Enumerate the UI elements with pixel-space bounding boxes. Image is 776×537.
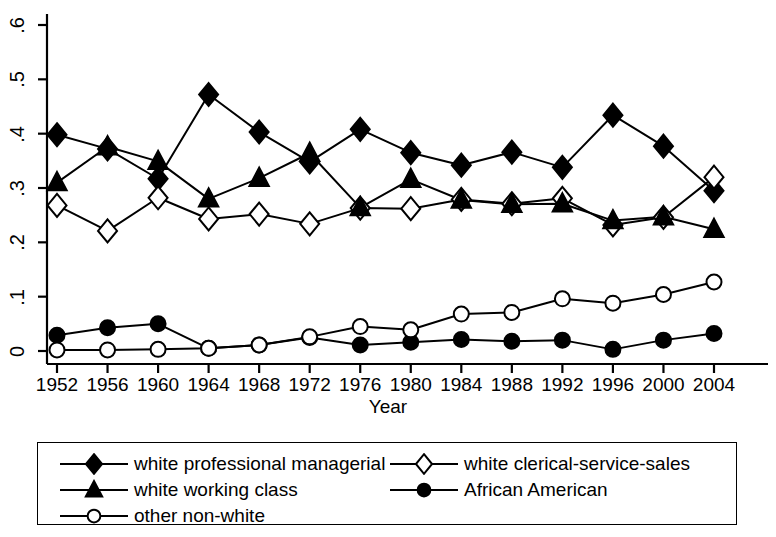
open-circle-icon bbox=[58, 505, 130, 527]
y-tick-label: .1 bbox=[6, 280, 29, 314]
legend-item-1[interactable]: white professional managerial bbox=[58, 451, 385, 477]
legend-label: other non-white bbox=[134, 505, 265, 527]
y-tick-label: .6 bbox=[6, 9, 29, 43]
filled-diamond-icon bbox=[58, 453, 130, 475]
x-tick-label: 1960 bbox=[132, 374, 184, 396]
x-tick-label: 2004 bbox=[688, 374, 740, 396]
y-tick-label: 0 bbox=[6, 335, 29, 369]
line-chart-svg bbox=[0, 0, 776, 420]
legend-label: white working class bbox=[134, 479, 298, 501]
x-tick-label: 1980 bbox=[385, 374, 437, 396]
legend-label: white professional managerial bbox=[134, 453, 385, 475]
legend-label: African American bbox=[464, 479, 608, 501]
x-tick-label: 1984 bbox=[435, 374, 487, 396]
legend-item-4[interactable]: African American bbox=[388, 477, 608, 503]
x-axis-title: Year bbox=[0, 396, 776, 418]
x-tick-label: 1968 bbox=[233, 374, 285, 396]
legend-item-3[interactable]: white working class bbox=[58, 477, 298, 503]
x-tick-label: 1952 bbox=[31, 374, 83, 396]
y-tick-label: .3 bbox=[6, 172, 29, 206]
x-tick-label: 2000 bbox=[637, 374, 689, 396]
chart-plot-area: 0.1.2.3.4.5.6 19521956196019641968197219… bbox=[0, 0, 776, 420]
x-tick-label: 1972 bbox=[284, 374, 336, 396]
series-5-markers bbox=[50, 274, 722, 357]
legend-item-2[interactable]: white clerical-service-sales bbox=[388, 451, 690, 477]
open-diamond-icon bbox=[388, 453, 460, 475]
series-1-markers bbox=[48, 83, 724, 202]
legend-label: white clerical-service-sales bbox=[464, 453, 690, 475]
y-tick-label: .5 bbox=[6, 63, 29, 97]
filled-circle-icon bbox=[388, 479, 460, 501]
chart-page: 0.1.2.3.4.5.6 19521956196019641968197219… bbox=[0, 0, 776, 537]
x-tick-label: 1964 bbox=[183, 374, 235, 396]
series-3-markers bbox=[47, 136, 724, 238]
legend-item-5[interactable]: other non-white bbox=[58, 503, 265, 529]
x-tick-label: 1988 bbox=[486, 374, 538, 396]
x-tick-label: 1992 bbox=[536, 374, 588, 396]
y-tick-label: .4 bbox=[6, 117, 29, 151]
chart-legend: white professional managerialwhite cleri… bbox=[37, 442, 737, 525]
x-tick-label: 1976 bbox=[334, 374, 386, 396]
y-tick-label: .2 bbox=[6, 226, 29, 260]
x-tick-label: 1996 bbox=[587, 374, 639, 396]
filled-triangle-icon bbox=[58, 479, 130, 501]
x-tick-label: 1956 bbox=[82, 374, 134, 396]
